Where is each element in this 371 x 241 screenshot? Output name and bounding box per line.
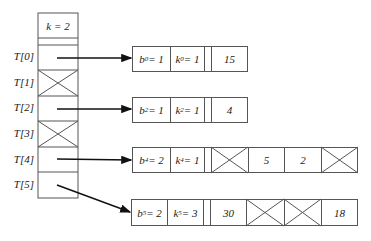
bucket-value-cell: 30 xyxy=(210,199,247,226)
bucket-k-cell: k4 = 1 xyxy=(170,147,205,173)
empty-slot-cross-icon xyxy=(38,121,78,147)
bucket-b-cell: b2 = 1 xyxy=(132,97,171,123)
arrow-icon xyxy=(57,159,131,160)
bucket-value-cell: 5 xyxy=(248,147,285,173)
slot-label: T[4] xyxy=(4,153,34,165)
bucket-empty-cell xyxy=(321,147,358,173)
bucket-value-cell: 18 xyxy=(321,199,358,226)
bucket-b-cell: b4 = 2 xyxy=(132,147,171,173)
slot-label: T[1] xyxy=(4,76,34,88)
bucket-b-cell: b5 = 2 xyxy=(131,199,168,226)
bucket-k-cell: k5 = 3 xyxy=(167,199,204,226)
slot-label: T[3] xyxy=(4,127,34,139)
bucket-empty-cell xyxy=(284,199,322,226)
bucket-value-cell: 4 xyxy=(211,97,248,123)
bucket-value-cell: 2 xyxy=(284,147,322,173)
hash-table-diagram: k = 2 T[0] T[1] T[2] T[3] T[4] T[5] b0 =… xyxy=(0,0,371,241)
bucket-k-cell: k0 = 1 xyxy=(170,46,205,72)
slot-label: T[5] xyxy=(4,178,34,190)
k-header: k = 2 xyxy=(38,13,78,39)
bucket-empty-cell xyxy=(246,199,285,226)
empty-slot-cross-icon xyxy=(38,70,78,96)
bucket-k-cell: k2 = 1 xyxy=(170,97,205,123)
bucket-empty-cell xyxy=(211,147,249,173)
bucket-value-cell: 15 xyxy=(211,46,248,72)
slot-label: T[0] xyxy=(4,50,34,62)
bucket-b-cell: b0 = 1 xyxy=(132,46,171,72)
slot-label: T[2] xyxy=(4,101,34,113)
